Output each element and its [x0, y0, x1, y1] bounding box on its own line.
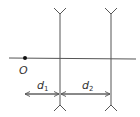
lens-diagram: O d1 d2: [0, 0, 140, 117]
svg-text:d2: d2: [82, 79, 93, 93]
dimension-d1: d1: [25, 79, 59, 94]
point-o-label: O: [19, 64, 28, 77]
diverging-lens-2: [105, 8, 117, 111]
optical-axis: [9, 58, 136, 59]
dimension-d2: d2: [61, 79, 110, 94]
svg-text:d1: d1: [37, 79, 48, 93]
diverging-lens-1: [54, 8, 66, 111]
point-o: [23, 56, 27, 60]
